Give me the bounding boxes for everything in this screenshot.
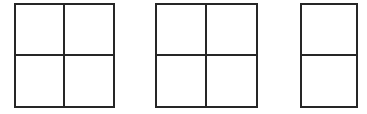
grid-cell (207, 56, 257, 107)
grid-cell (65, 5, 114, 56)
grid-figure-2 (155, 3, 258, 108)
grid-figure-3 (300, 3, 358, 108)
grid-cell (302, 5, 356, 56)
grid-cell (65, 56, 114, 107)
grid-cell (157, 56, 207, 107)
grid-figure-1 (14, 3, 115, 108)
grid-cell (16, 56, 65, 107)
figure-canvas (0, 0, 367, 114)
grid-cell (157, 5, 207, 56)
grid-cell (302, 56, 356, 107)
grid-cell (207, 5, 257, 56)
grid-cell (16, 5, 65, 56)
